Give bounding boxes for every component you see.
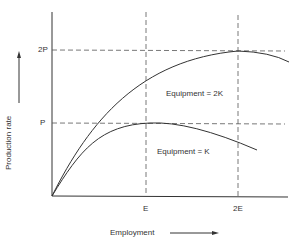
x-arrow-head-icon <box>212 231 219 235</box>
curve-equipment-k <box>52 123 257 196</box>
y-tick-p: P <box>40 119 45 127</box>
x-axis-label: Employment <box>110 229 154 237</box>
label-equipment-2k: Equipment = 2K <box>166 90 223 98</box>
y-arrow-head-icon <box>17 51 21 58</box>
y-axis-label: Production rate <box>4 116 13 170</box>
label-equipment-k: Equipment = K <box>157 148 210 156</box>
x-axis <box>52 196 288 197</box>
ref-line-2p <box>52 50 285 51</box>
y-tick-2p: 2P <box>38 46 48 54</box>
x-tick-e: E <box>143 205 148 213</box>
x-tick-2e: 2E <box>233 205 243 213</box>
